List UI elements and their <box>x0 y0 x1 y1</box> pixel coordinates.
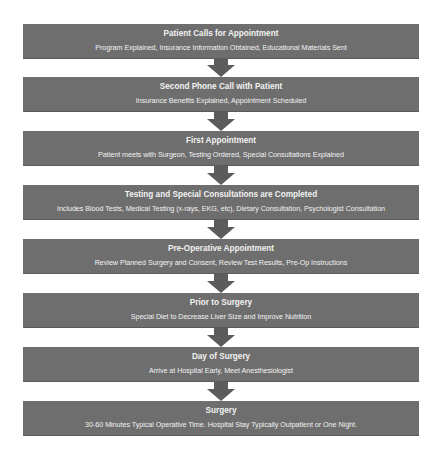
step-patient-calls: Patient Calls for Appointment Program Ex… <box>23 24 419 59</box>
step-title: First Appointment <box>23 136 419 146</box>
step-description: Special Diet to Decrease Liver Size and … <box>23 312 419 321</box>
step-description: Program Explained, Insurance Information… <box>23 43 419 52</box>
step-surgery: Surgery 30-60 Minutes Typical Operative … <box>23 401 419 436</box>
patient-process-flowchart: Patient Calls for Appointment Program Ex… <box>0 0 443 458</box>
step-title: Second Phone Call with Patient <box>23 82 419 92</box>
step-day-of-surgery: Day of Surgery Arrive at Hospital Early,… <box>23 347 419 382</box>
down-arrow-icon <box>207 58 235 77</box>
step-title: Patient Calls for Appointment <box>23 29 419 39</box>
step-pre-operative-appointment: Pre-Operative Appointment Review Planned… <box>23 239 419 274</box>
step-title: Pre-Operative Appointment <box>23 244 419 254</box>
step-description: Insurance Benefits Explained, Appointmen… <box>23 96 419 105</box>
down-arrow-icon <box>207 274 235 293</box>
down-arrow-icon <box>207 328 235 347</box>
step-title: Day of Surgery <box>23 352 419 362</box>
step-second-phone-call: Second Phone Call with Patient Insurance… <box>23 77 419 112</box>
step-description: 30-60 Minutes Typical Operative Time. Ho… <box>23 420 419 429</box>
step-description: Patient meets with Surgeon, Testing Orde… <box>23 150 419 159</box>
step-title: Surgery <box>23 406 419 416</box>
step-title: Prior to Surgery <box>23 298 419 308</box>
step-first-appointment: First Appointment Patient meets with Sur… <box>23 131 419 166</box>
step-testing-consultations: Testing and Special Consultations are Co… <box>23 185 419 220</box>
down-arrow-icon <box>207 220 235 239</box>
step-description: Review Planned Surgery and Consent, Revi… <box>23 258 419 267</box>
step-description: Arrive at Hospital Early, Meet Anesthesi… <box>23 366 419 375</box>
step-description: Includes Blood Tests, Medical Testing (x… <box>23 204 419 213</box>
step-prior-to-surgery: Prior to Surgery Special Diet to Decreas… <box>23 293 419 328</box>
step-title: Testing and Special Consultations are Co… <box>23 190 419 200</box>
down-arrow-icon <box>207 166 235 185</box>
down-arrow-icon <box>207 112 235 131</box>
down-arrow-icon <box>207 382 235 401</box>
